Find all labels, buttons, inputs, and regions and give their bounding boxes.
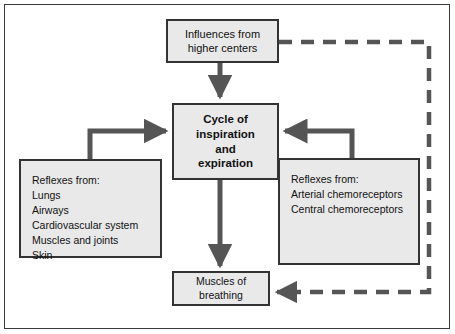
peripheral-reflexes-item-4: Muscles and joints (32, 233, 160, 248)
box-influences-from-higher-centers: Influences from higher centers (166, 19, 279, 63)
box-reflexes-from-peripheral: Reflexes from: Lungs Airways Cardiovascu… (19, 159, 162, 258)
higher-centers-line-1: Influences from (185, 27, 260, 41)
box-reflexes-from-chemoreceptors: Reflexes from: Arterial chemoreceptors C… (278, 158, 420, 265)
peripheral-reflexes-item-3: Cardiovascular system (32, 218, 160, 233)
chemo-reflexes-heading: Reflexes from: (291, 172, 418, 187)
muscles-line-2: breathing (199, 289, 243, 303)
peripheral-reflexes-item-5: Skin (32, 248, 160, 263)
box-muscles-of-breathing: Muscles of breathing (172, 271, 270, 306)
cycle-line-4: expiration (198, 156, 253, 171)
respiratory-control-diagram: Influences from higher centers Cycle of … (0, 0, 455, 334)
peripheral-reflexes-heading: Reflexes from: (32, 173, 160, 188)
chemo-reflexes-item-2: Central chemoreceptors (291, 202, 418, 217)
peripheral-reflexes-item-2: Airways (32, 203, 160, 218)
cycle-line-2: inspiration (196, 127, 255, 142)
muscles-line-1: Muscles of (196, 275, 246, 289)
box-cycle-of-inspiration-and-expiration: Cycle of inspiration and expiration (172, 103, 279, 180)
cycle-line-3: and (215, 142, 235, 157)
cycle-line-1: Cycle of (203, 112, 248, 127)
peripheral-reflexes-item-1: Lungs (32, 188, 160, 203)
arrow-chemoreflexes-to-cycle (285, 131, 352, 158)
higher-centers-line-2: higher centers (188, 41, 258, 55)
chemo-reflexes-item-1: Arterial chemoreceptors (291, 187, 418, 202)
arrow-peripheral-reflexes-to-cycle (90, 131, 166, 159)
